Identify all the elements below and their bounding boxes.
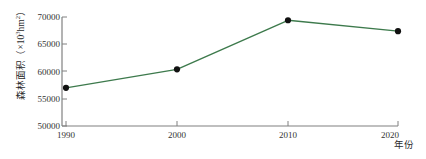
forest-area-line-chart: 森林面积（×103hm2） 70000 65000 60000 55000 50… xyxy=(0,0,426,159)
y-axis-ticks xyxy=(62,17,67,126)
data-point-2000 xyxy=(174,66,180,72)
series-line-forest-area xyxy=(66,20,398,88)
x-axis-ticks xyxy=(66,121,398,126)
data-point-2010 xyxy=(285,17,291,23)
plot-area xyxy=(0,0,426,159)
data-point-1990 xyxy=(63,85,69,91)
data-point-2020 xyxy=(395,28,401,34)
